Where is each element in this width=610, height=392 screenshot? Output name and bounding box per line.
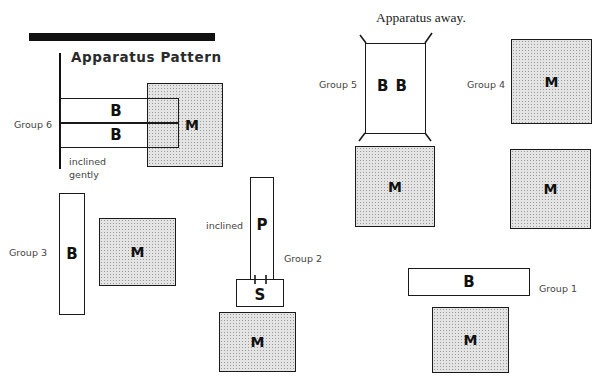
frame-leg-bottom-left	[359, 133, 365, 141]
diagram-line-overlay	[0, 0, 610, 392]
frame-leg-top-left	[360, 35, 366, 43]
frame-leg-bottom-right	[425, 133, 431, 141]
frame-leg-top-right	[425, 33, 432, 43]
